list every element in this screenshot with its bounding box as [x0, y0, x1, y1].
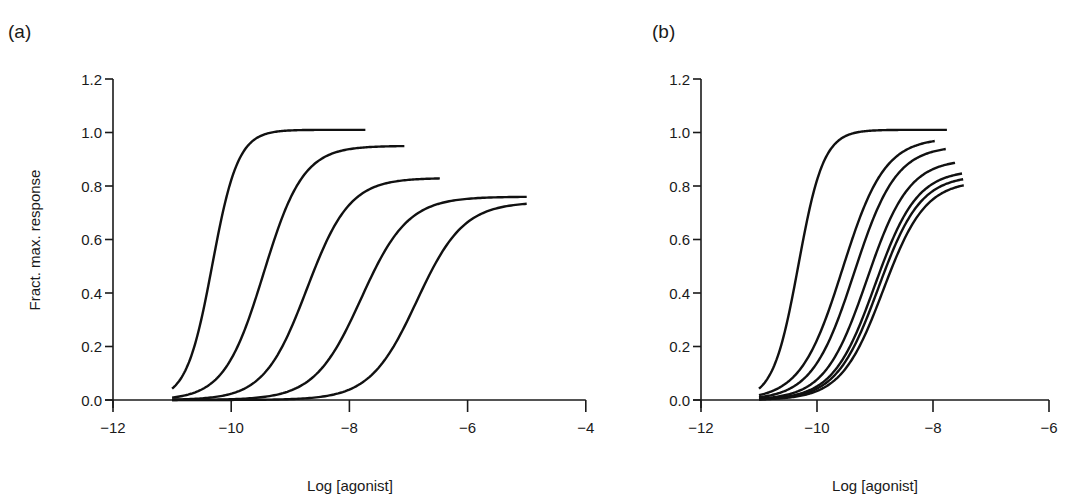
panel-a-axes: 0.00.20.40.60.81.01.2−12−10−8−6−4: [81, 71, 594, 437]
y-tick-label: 0.0: [81, 392, 102, 409]
y-tick-label: 1.0: [81, 124, 102, 141]
x-tick-label: −6: [1040, 419, 1057, 436]
panel-a-x-axis-title: Log [agonist]: [307, 477, 393, 494]
panel-a-y-axis-title: Fract. max. response: [26, 170, 43, 311]
panel-a-curves: [172, 130, 527, 400]
panel-b: (b) 0.00.20.40.60.81.01.2−12−10−8−6 Log …: [652, 21, 1058, 494]
x-tick-label: −12: [688, 419, 713, 436]
y-tick-label: 0.4: [669, 285, 690, 302]
y-tick-label: 0.6: [81, 231, 102, 248]
y-tick-label: 0.2: [669, 338, 690, 355]
x-tick-label: −6: [459, 419, 476, 436]
panel-b-curves: [759, 130, 964, 400]
x-tick-label: −12: [100, 419, 125, 436]
panel-b-x-axis-title: Log [agonist]: [832, 477, 918, 494]
dose-response-curve-5: [172, 204, 527, 400]
y-tick-label: 0.6: [669, 231, 690, 248]
x-tick-label: −10: [218, 419, 243, 436]
panel-a: (a) 0.00.20.40.60.81.01.2−12−10−8−6−4 Lo…: [8, 21, 594, 494]
dose-response-curve-5: [759, 174, 962, 400]
x-tick-label: −10: [804, 419, 829, 436]
panel-b-axes: 0.00.20.40.60.81.01.2−12−10−8−6: [669, 71, 1057, 437]
panel-b-label: (b): [652, 21, 675, 42]
y-tick-label: 0.8: [669, 178, 690, 195]
dose-response-curve-2: [172, 146, 404, 397]
x-tick-label: −8: [341, 419, 358, 436]
x-tick-label: −8: [924, 419, 941, 436]
y-tick-label: 1.0: [669, 124, 690, 141]
y-tick-label: 0.0: [669, 392, 690, 409]
y-tick-label: 1.2: [81, 71, 102, 88]
dose-response-curve-3: [172, 178, 440, 399]
x-tick-label: −4: [577, 419, 594, 436]
y-tick-label: 0.4: [81, 285, 102, 302]
figure: (a) 0.00.20.40.60.81.01.2−12−10−8−6−4 Lo…: [0, 0, 1075, 503]
y-tick-label: 1.2: [669, 71, 690, 88]
panel-a-label: (a): [8, 21, 31, 42]
y-tick-label: 0.8: [81, 178, 102, 195]
y-tick-label: 0.2: [81, 338, 102, 355]
